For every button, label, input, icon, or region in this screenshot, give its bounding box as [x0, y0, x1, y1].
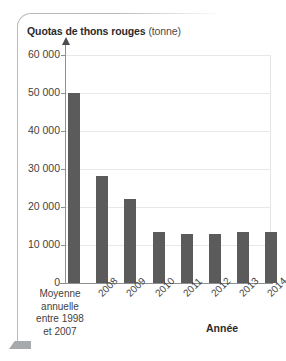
bar	[124, 199, 136, 283]
y-axis-tick	[61, 283, 66, 284]
y-axis-tick	[61, 55, 66, 56]
bar	[237, 232, 249, 283]
bar	[153, 232, 165, 283]
bar	[96, 176, 108, 283]
y-axis-tick	[61, 207, 66, 208]
bar-series	[0, 0, 286, 283]
y-axis-tick	[61, 131, 66, 132]
avg-line-4: et 2007	[22, 326, 98, 339]
bar	[181, 234, 193, 283]
avg-line-2: annuelle	[22, 301, 98, 314]
y-axis-tick	[61, 245, 66, 246]
y-axis-tick	[61, 93, 66, 94]
x-axis-title: Année	[206, 322, 238, 334]
bar	[265, 232, 277, 283]
bar	[209, 234, 221, 283]
y-axis-tick	[61, 169, 66, 170]
avg-line-1: Moyenne	[22, 288, 98, 301]
bar	[68, 93, 80, 283]
bar-chart: Quotas de thons rouges (tonne) 60 00050 …	[0, 0, 286, 361]
x-tick-label-average: Moyenne annuelle entre 1998 et 2007	[22, 288, 98, 338]
avg-line-3: entre 1998	[22, 313, 98, 326]
